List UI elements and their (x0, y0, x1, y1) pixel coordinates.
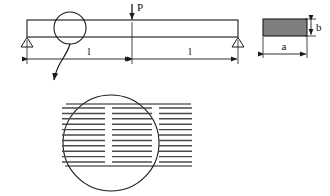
detail-view-circle (63, 95, 159, 191)
dimension-span-left-label: l (87, 45, 90, 57)
cross-section-rectangle (263, 19, 307, 36)
laminate-detail-magnified (62, 95, 192, 191)
simply-supported-beam (27, 20, 238, 37)
dimension-section-width-label: a (282, 40, 287, 52)
supports-group (21, 38, 244, 48)
detail-leader-arrow (54, 44, 70, 80)
beam-group (27, 20, 238, 37)
load-label: P (137, 1, 143, 13)
dimension-span-right-label: l (188, 45, 191, 57)
dimension-section-height-label: b (316, 21, 322, 33)
leader-group (54, 44, 70, 80)
point-load-group: P (132, 1, 143, 20)
beam-diagram-svg: P l l b (0, 0, 330, 196)
cross-section-group: b a (263, 19, 322, 58)
laminate-layers (62, 108, 192, 162)
figure-root: P l l b (0, 0, 330, 196)
